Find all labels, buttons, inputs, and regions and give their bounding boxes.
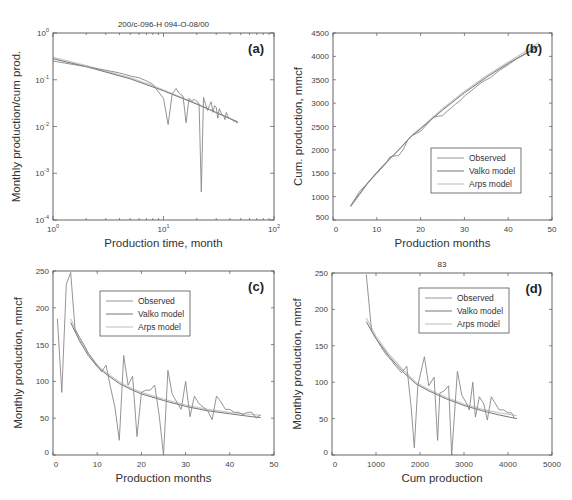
axes-frame <box>53 33 274 220</box>
y-tick-label: 50 <box>319 415 328 424</box>
y-tick-label: 4500 <box>311 29 329 38</box>
x-tick-label: 50 <box>270 460 279 469</box>
legend: ObservedValko modelArps model <box>100 291 190 336</box>
chart-title: 83 <box>438 260 447 269</box>
y-tick-label: 200 <box>315 305 329 314</box>
x-tick-label: 30 <box>181 460 190 469</box>
x-axis-label: Cum production <box>401 472 482 484</box>
x-tick-label: 102 <box>268 223 280 234</box>
series-valko-model <box>53 59 238 122</box>
series-valko-model <box>71 323 261 418</box>
x-tick-label: 20 <box>416 225 425 234</box>
legend-entry: Valko model <box>457 306 503 316</box>
panel-label: (b) <box>525 41 542 56</box>
y-tick-label: 10-1 <box>35 74 49 85</box>
x-tick-label: 0 <box>54 460 59 469</box>
x-axis-label: Production time, month <box>104 237 222 249</box>
y-tick-label: 1500 <box>311 169 329 178</box>
x-tick-label: 0 <box>333 460 338 469</box>
x-tick-label: 3000 <box>455 460 473 469</box>
plot-series <box>53 57 238 192</box>
legend: ObservedValko modelArps model <box>419 288 509 333</box>
legend-entry: Observed <box>469 153 506 163</box>
figure: 10010110210-410-310-210-1100Production t… <box>0 0 572 500</box>
series-observed <box>53 61 238 192</box>
y-axis-label: Cum. production, mmcf <box>292 66 304 186</box>
y-tick-label: 500 <box>316 213 330 222</box>
legend-entry: Valko model <box>469 166 515 176</box>
panel-c-chart: 01020304050050100150200250Production mon… <box>12 267 279 484</box>
legend-entry: Arps model <box>138 322 181 332</box>
y-tick-label: 0 <box>45 448 50 457</box>
legend-entry: Arps model <box>469 179 512 189</box>
panel-label: (c) <box>248 279 264 294</box>
x-tick-label: 40 <box>225 460 234 469</box>
y-tick-label: 2500 <box>311 123 329 132</box>
x-tick-label: 100 <box>47 223 59 234</box>
y-tick-label: 10-2 <box>35 121 49 132</box>
x-tick-label: 5000 <box>543 460 561 469</box>
y-tick-label: 200 <box>36 304 50 313</box>
panel-d-chart: 010002000300040005000050100150200250Cum … <box>291 260 561 484</box>
x-tick-label: 0 <box>334 225 339 234</box>
y-tick-label: 3000 <box>311 99 329 108</box>
legend-entry: Arps model <box>457 319 500 329</box>
y-tick-label: 2000 <box>311 146 329 155</box>
legend-entry: Observed <box>138 296 175 306</box>
ticks: 0102030405050010001500200025003000350040… <box>311 29 557 234</box>
ticks: 10010110210-410-310-210-1100 <box>35 27 280 234</box>
y-tick-label: 50 <box>40 414 49 423</box>
x-tick-label: 10 <box>93 460 102 469</box>
x-tick-label: 101 <box>158 223 170 234</box>
x-tick-label: 4000 <box>499 460 517 469</box>
legend-entry: Valko model <box>138 309 184 319</box>
x-tick-label: 10 <box>372 225 381 234</box>
y-tick-label: 1000 <box>311 193 329 202</box>
series-valko-model <box>366 322 517 419</box>
panel-b-chart: 0102030405050010001500200025003000350040… <box>292 29 557 249</box>
panel-label: (d) <box>525 281 542 296</box>
y-tick-label: 100 <box>37 27 49 38</box>
y-tick-label: 250 <box>315 269 329 278</box>
x-tick-label: 20 <box>137 460 146 469</box>
x-tick-label: 2000 <box>411 460 429 469</box>
y-tick-label: 3500 <box>311 76 329 85</box>
y-tick-label: 100 <box>36 377 50 386</box>
x-axis-label: Production months <box>116 472 212 484</box>
y-tick-label: 250 <box>36 267 50 276</box>
x-tick-label: 50 <box>548 225 557 234</box>
y-axis-label: Monthly production, mmcf <box>12 296 24 428</box>
legend-entry: Observed <box>457 293 494 303</box>
y-tick-label: 4000 <box>311 52 329 61</box>
x-axis-label: Production months <box>395 237 491 249</box>
chart-title: 200/c-096-H 094-O-08/00 <box>118 20 210 29</box>
y-tick-label: 150 <box>36 341 50 350</box>
y-axis-label: Monthly production, mmcf <box>291 297 303 429</box>
x-tick-label: 30 <box>460 225 469 234</box>
x-tick-label: 1000 <box>367 460 385 469</box>
legend: ObservedValko modelArps model <box>431 148 521 193</box>
panel-a-chart: 10010110210-410-310-210-1100Production t… <box>10 20 280 249</box>
y-tick-label: 10-3 <box>35 167 49 178</box>
x-tick-label: 40 <box>504 225 513 234</box>
y-tick-label: 150 <box>315 342 329 351</box>
panel-label: (a) <box>248 41 264 56</box>
y-tick-label: 100 <box>315 378 329 387</box>
y-axis-label: Monthly production/cum prod. <box>10 51 22 203</box>
y-tick-label: 10-4 <box>35 214 49 225</box>
y-tick-label: 0 <box>324 448 329 457</box>
series-arps-model <box>53 57 238 122</box>
